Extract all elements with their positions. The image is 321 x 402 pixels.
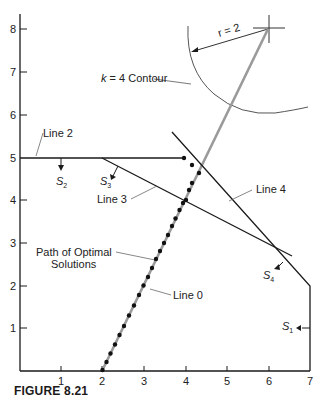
path-label-line1: Path of Optimal xyxy=(36,246,112,258)
y-tick-5: 5 xyxy=(10,152,16,164)
figure-canvas: 1 2 3 4 5 6 7 8 7 6 5 4 3 2 1 k = 4 Cont… xyxy=(0,0,321,402)
path-leader xyxy=(116,252,155,260)
path-label-line2: Solutions xyxy=(51,258,97,270)
y-tick-2: 2 xyxy=(10,280,16,292)
y-tick-8: 8 xyxy=(10,23,16,35)
figure-caption: FIGURE 8.21 xyxy=(14,384,88,398)
radius-arrowhead xyxy=(191,47,198,52)
y-ticks xyxy=(20,29,27,328)
x-tick-7: 7 xyxy=(307,375,313,387)
s1-arrowhead xyxy=(296,325,301,331)
y-tick-6: 6 xyxy=(10,109,16,121)
radius-label: r = 2 xyxy=(216,21,241,39)
s3-label: S3 xyxy=(100,175,111,189)
line-0-label: Line 0 xyxy=(173,289,203,301)
x-tick-3: 3 xyxy=(141,375,147,387)
x-tick-2: 2 xyxy=(99,375,105,387)
contour-label: k = 4 Contour xyxy=(101,72,168,84)
y-tick-1: 1 xyxy=(10,322,16,334)
x-tick-4: 4 xyxy=(183,375,189,387)
line-0-leader xyxy=(150,289,171,295)
s3-arrow xyxy=(113,166,118,176)
x-tick-labels: 1 2 3 4 5 6 7 xyxy=(58,375,313,387)
y-tick-4: 4 xyxy=(10,194,16,206)
x-tick-6: 6 xyxy=(266,375,272,387)
line-2-label: Line 2 xyxy=(43,127,73,139)
s1-label: S1 xyxy=(282,320,293,334)
s4-arrowhead xyxy=(274,264,280,270)
optimal-path-dots xyxy=(100,156,201,372)
line-4-label: Line 4 xyxy=(256,183,286,195)
x-tick-5: 5 xyxy=(224,375,230,387)
crosshair-icon xyxy=(253,15,285,43)
line-3-label: Line 3 xyxy=(97,193,127,205)
y-tick-3: 3 xyxy=(10,237,16,249)
s2-arrowhead xyxy=(58,165,64,171)
y-tick-labels: 8 7 6 5 4 3 2 1 xyxy=(10,23,16,334)
line-2-leader xyxy=(36,133,43,156)
s4-label: S4 xyxy=(263,269,274,283)
line-4-leader xyxy=(229,190,252,201)
line-4 xyxy=(172,132,310,371)
s2-label: S2 xyxy=(56,175,67,189)
line-3-leader xyxy=(131,186,157,199)
y-tick-7: 7 xyxy=(10,66,16,78)
x-ticks xyxy=(61,366,269,371)
